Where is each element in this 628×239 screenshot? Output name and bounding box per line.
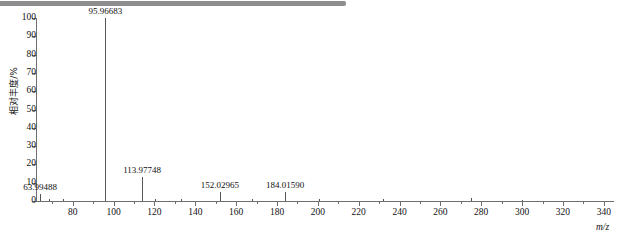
- x-axis-title: m/z: [596, 222, 609, 232]
- y-tick-label: 20: [0, 159, 36, 169]
- x-axis-line: [36, 201, 614, 202]
- spectrum-peak: [383, 199, 384, 201]
- mass-spectrum-chart: 0102030405060708090100 80100120140160180…: [0, 0, 628, 239]
- spectrum-peak: [220, 192, 221, 201]
- y-axis-title: 相对丰度/%: [9, 51, 19, 131]
- x-tick-minor: [216, 202, 217, 204]
- x-tick-major: [481, 202, 482, 206]
- spectrum-peak: [522, 200, 523, 201]
- peak-label: 152.02965: [201, 180, 239, 190]
- x-tick-major: [318, 202, 319, 206]
- spectrum-peak: [252, 199, 253, 201]
- x-tick-major: [114, 202, 115, 206]
- x-tick-minor: [175, 202, 176, 204]
- x-tick-major: [563, 202, 564, 206]
- spectrum-peak: [181, 199, 182, 201]
- x-tick-major: [195, 202, 196, 206]
- y-tick-label-text: 20: [8, 159, 36, 169]
- x-tick-major: [522, 202, 523, 206]
- x-tick-label: 80: [53, 207, 93, 217]
- spectrum-peak: [285, 192, 286, 201]
- spectrum-peak: [63, 199, 64, 201]
- x-tick-minor: [420, 202, 421, 204]
- y-tick-label-text: 90: [8, 31, 36, 41]
- spectrum-peak: [155, 199, 156, 201]
- x-tick-major: [604, 202, 605, 206]
- spectrum-peak: [319, 199, 320, 201]
- x-tick-label: 320: [543, 207, 583, 217]
- x-tick-major: [400, 202, 401, 206]
- x-tick-minor: [379, 202, 380, 204]
- peak-label: 63.99488: [23, 182, 57, 192]
- x-tick-major: [236, 202, 237, 206]
- x-tick-label: 180: [257, 207, 297, 217]
- x-tick-label: 300: [502, 207, 542, 217]
- x-tick-minor: [93, 202, 94, 204]
- x-tick-minor: [338, 202, 339, 204]
- y-tick-label-text: 100: [8, 13, 36, 23]
- x-tick-minor: [257, 202, 258, 204]
- x-tick-label: 160: [216, 207, 256, 217]
- peak-label: 95.96683: [88, 6, 122, 16]
- x-tick-minor: [543, 202, 544, 204]
- x-tick-major: [440, 202, 441, 206]
- x-tick-label: 340: [584, 207, 624, 217]
- x-tick-minor: [583, 202, 584, 204]
- spectrum-peak: [49, 199, 50, 201]
- x-tick-major: [154, 202, 155, 206]
- x-tick-major: [359, 202, 360, 206]
- y-tick-label-text: 30: [8, 141, 36, 151]
- spectrum-peak: [40, 194, 41, 201]
- spectrum-peak: [142, 177, 143, 201]
- y-tick-label: 30: [0, 141, 36, 151]
- x-tick-major: [73, 202, 74, 206]
- x-tick-label: 140: [175, 207, 215, 217]
- y-tick-label: 0: [0, 196, 36, 206]
- x-tick-minor: [134, 202, 135, 204]
- y-tick-label: 100: [0, 13, 36, 23]
- x-tick-minor: [297, 202, 298, 204]
- x-tick-label: 280: [461, 207, 501, 217]
- x-tick-label: 120: [134, 207, 174, 217]
- x-tick-label: 220: [339, 207, 379, 217]
- x-tick-label: 260: [420, 207, 460, 217]
- x-tick-minor: [52, 202, 53, 204]
- x-tick-minor: [461, 202, 462, 204]
- peak-label: 113.97748: [123, 165, 161, 175]
- x-tick-label: 240: [380, 207, 420, 217]
- x-tick-label: 100: [94, 207, 134, 217]
- y-tick-label-text: 0: [8, 196, 36, 206]
- spectrum-peak: [471, 198, 472, 201]
- x-tick-label: 200: [298, 207, 338, 217]
- y-axis-line: [36, 18, 37, 202]
- x-tick-minor: [502, 202, 503, 204]
- y-tick-label: 90: [0, 31, 36, 41]
- spectrum-peak: [105, 18, 106, 201]
- x-tick-major: [277, 202, 278, 206]
- peak-label: 184.01590: [266, 180, 304, 190]
